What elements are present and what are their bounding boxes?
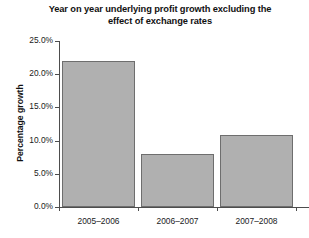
y-tick-mark <box>55 107 59 108</box>
y-tick-label: 0.0% <box>34 201 53 211</box>
x-tick-mark <box>138 207 139 211</box>
y-tick-mark <box>55 41 59 42</box>
y-tick-mark <box>55 174 59 175</box>
bar-2006-2007 <box>141 154 214 207</box>
chart-title: Year on year underlying profit growth ex… <box>28 4 292 27</box>
y-tick-label: 10.0% <box>29 135 53 145</box>
y-tick-mark <box>55 141 59 142</box>
y-tick-label: 25.0% <box>29 35 53 45</box>
x-tick-mark <box>217 207 218 211</box>
y-axis-line <box>59 41 60 207</box>
x-axis-label-2007-2008: 2007–2008 <box>217 216 296 226</box>
y-tick-label: 15.0% <box>29 101 53 111</box>
x-tick-mark <box>296 207 297 211</box>
chart-title-line-1: Year on year underlying profit growth ex… <box>28 4 292 16</box>
chart-title-line-2: effect of exchange rates <box>28 16 292 28</box>
bar-2005-2006 <box>62 61 135 207</box>
x-axis-label-2006-2007: 2006–2007 <box>138 216 217 226</box>
plot-area: 0.0% 5.0% 10.0% 15.0% 20.0% 25.0% <box>59 41 309 207</box>
bar-chart: Year on year underlying profit growth ex… <box>0 0 309 238</box>
y-axis-title: Percentage growth <box>15 63 25 183</box>
y-tick-label: 20.0% <box>29 68 53 78</box>
y-tick-label: 5.0% <box>34 168 53 178</box>
y-tick-mark <box>55 74 59 75</box>
x-tick-mark <box>59 207 60 211</box>
x-axis-label-2005-2006: 2005–2006 <box>59 216 138 226</box>
x-axis-line <box>59 207 309 208</box>
bar-2007-2008 <box>220 135 293 207</box>
